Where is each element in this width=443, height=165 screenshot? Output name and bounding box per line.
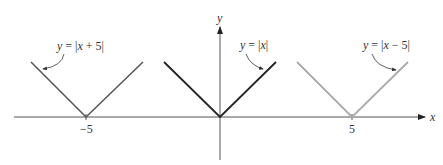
x-axis-label: x (429, 110, 436, 124)
label-abs-x-minus-5: y = |x − 5| (362, 38, 410, 52)
label-abs-x: y = |x| (239, 38, 268, 52)
absolute-value-graph: x y −5 5 y = |x + 5| y = |x| y = |x − 5| (0, 0, 443, 165)
y-axis-label: y (216, 11, 223, 25)
curve-abs-x-plus-5 (31, 62, 143, 117)
label-abs-x-plus-5: y = |x + 5| (56, 39, 104, 53)
curve-abs-x-minus-5 (297, 62, 408, 117)
arrow-right-label (372, 54, 396, 70)
arrow-center-label (246, 54, 263, 69)
arrow-left-label (43, 54, 64, 69)
tick-label-neg5: −5 (80, 122, 93, 136)
tick-label-pos5: 5 (349, 122, 355, 136)
